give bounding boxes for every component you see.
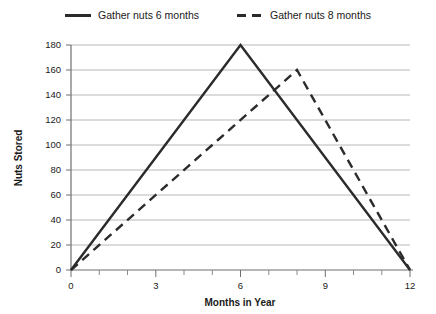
- x-tick-label: 12: [405, 280, 416, 291]
- y-axis-ticks: [66, 45, 71, 270]
- gridlines: [71, 45, 410, 245]
- series-line-gather-nuts-6-months: [71, 45, 410, 270]
- y-tick-label: 120: [45, 114, 61, 125]
- y-tick-label: 0: [56, 264, 61, 275]
- y-tick-label: 20: [50, 239, 61, 250]
- chart-legend: Gather nuts 6 months Gather nuts 8 month…: [0, 4, 436, 26]
- chart-svg: 180 160 140 120 100 80 60 40 20 0: [0, 28, 436, 314]
- y-tick-label: 60: [50, 189, 61, 200]
- legend-label-series-1: Gather nuts 6 months: [98, 10, 199, 21]
- plot-area: 180 160 140 120 100 80 60 40 20 0: [0, 28, 436, 314]
- y-tick-label: 80: [50, 164, 61, 175]
- y-axis-tick-labels: 180 160 140 120 100 80 60 40 20 0: [45, 39, 61, 275]
- y-tick-label: 40: [50, 214, 61, 225]
- line-chart: Gather nuts 6 months Gather nuts 8 month…: [0, 0, 436, 314]
- x-tick-label: 0: [68, 280, 73, 291]
- legend-item-gather-nuts-6-months: Gather nuts 6 months: [65, 10, 199, 21]
- x-axis-tick-labels: 0 3 6 9 12: [68, 280, 415, 291]
- legend-solid-line-icon: [65, 10, 91, 20]
- x-tick-label: 6: [238, 280, 243, 291]
- y-tick-label: 160: [45, 64, 61, 75]
- series-group: [71, 45, 410, 270]
- x-axis-title: Months in Year: [205, 297, 276, 308]
- y-tick-label: 100: [45, 139, 61, 150]
- x-tick-label: 9: [323, 280, 328, 291]
- y-tick-label: 140: [45, 89, 61, 100]
- y-tick-label: 180: [45, 39, 61, 50]
- legend-dashed-line-icon: [237, 10, 263, 20]
- legend-item-gather-nuts-8-months: Gather nuts 8 months: [237, 10, 371, 21]
- x-axis-major-ticks: [71, 270, 410, 277]
- y-axis-title: Nuts Stored: [13, 130, 24, 187]
- axis-lines: [71, 45, 413, 270]
- legend-label-series-2: Gather nuts 8 months: [270, 10, 371, 21]
- x-tick-label: 3: [153, 280, 158, 291]
